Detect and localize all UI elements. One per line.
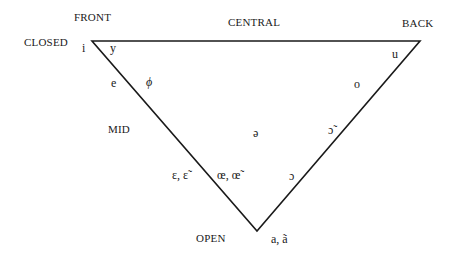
label-open: OPEN: [196, 233, 226, 244]
vowel-epsilon: ɛ, ɛ̃: [172, 169, 188, 181]
vowel-open-o: ɔ: [289, 170, 294, 182]
vowel-triangle-diagram: FRONT CENTRAL BACK CLOSED MID OPEN i y u…: [0, 0, 450, 253]
label-mid: MID: [108, 124, 130, 135]
vowel-phi: ϕ: [146, 76, 152, 88]
vowel-y: y: [110, 42, 116, 54]
vowel-i: i: [82, 42, 85, 54]
vowel-o: o: [354, 78, 360, 90]
label-back: BACK: [402, 18, 433, 29]
vowel-o-nasal: ɔ̃: [328, 124, 333, 136]
vowel-schwa: ə: [253, 127, 258, 139]
vowel-oe: œ, œ̃: [217, 169, 240, 181]
vowel-e: e: [111, 77, 116, 89]
label-closed: CLOSED: [24, 37, 68, 48]
label-central: CENTRAL: [228, 17, 280, 28]
label-front: FRONT: [74, 12, 111, 23]
vowel-a: a, ã: [271, 233, 288, 245]
vowel-u: u: [392, 48, 398, 60]
